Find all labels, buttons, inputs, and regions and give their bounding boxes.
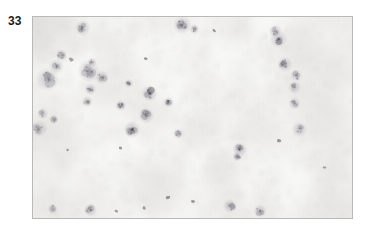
figure-number-label: 33: [8, 15, 22, 28]
micrograph-frame: [32, 16, 353, 219]
figure-panel: 33: [0, 0, 369, 235]
blood-smear-micrograph: [33, 17, 352, 218]
